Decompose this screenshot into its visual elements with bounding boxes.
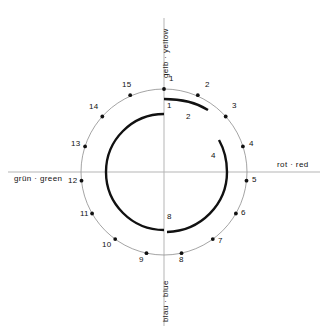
outer-point-label-3: 3 [232, 101, 237, 110]
spiral-label-4: 4 [211, 151, 216, 160]
axis-label-yellow: gelb · yellow [161, 28, 170, 78]
axis-label-green: grün · green [14, 174, 62, 183]
spiral-outer-turn [167, 140, 227, 232]
outer-point-label-4: 4 [249, 139, 254, 148]
outer-point-label-13: 13 [71, 139, 80, 148]
outer-point-label-11: 11 [80, 209, 89, 218]
spiral-label-2: 2 [186, 112, 191, 121]
figure-canvas: gelb · yellow rot · red grün · green bla… [0, 0, 328, 335]
axis-label-blue: blau · blue [161, 280, 170, 322]
outer-point-label-9: 9 [139, 255, 144, 264]
outer-point-label-10: 10 [102, 240, 111, 249]
spiral-label-8: 8 [167, 212, 172, 221]
outer-point-label-7: 7 [218, 236, 223, 245]
outer-point-label-5: 5 [252, 175, 257, 184]
outer-point-label-15: 15 [122, 80, 131, 89]
outer-point-label-2: 2 [205, 80, 210, 89]
outer-point-label-14: 14 [89, 102, 98, 111]
spiral-label-1: 1 [167, 101, 172, 110]
outer-point-label-12: 12 [68, 176, 77, 185]
axis-label-red: rot · red [277, 160, 309, 169]
outer-point-label-6: 6 [241, 208, 246, 217]
outer-point-label-1: 1 [169, 74, 174, 83]
outer-point-label-8: 8 [179, 255, 184, 264]
